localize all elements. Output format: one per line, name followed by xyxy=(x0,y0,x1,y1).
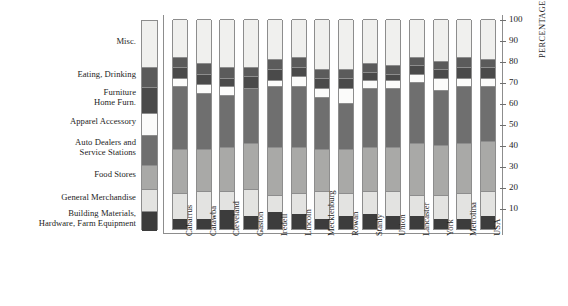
bar-segment xyxy=(481,19,495,59)
bar-segment xyxy=(410,82,424,143)
bar-segment xyxy=(481,59,495,67)
bar-union xyxy=(385,20,401,230)
bar-segment xyxy=(220,95,234,148)
bar-segment xyxy=(434,145,448,195)
bar-segment xyxy=(481,78,495,86)
plot-left-rule xyxy=(163,15,164,234)
y-axis-tick-label: 10 xyxy=(509,204,518,213)
x-axis-label-lancaster: Lancaster xyxy=(421,203,431,236)
bar-segment xyxy=(481,67,495,78)
bar-segment xyxy=(386,80,400,88)
legend-item-label-line: Home Furn. xyxy=(0,98,136,108)
bar-segment xyxy=(410,65,424,73)
legend-item-label: Auto Dealers andService Stations xyxy=(0,138,136,157)
bar-segment xyxy=(173,19,187,57)
x-axis-labels: CabarrusCatawbaClevelandGastonIredellLin… xyxy=(163,236,503,306)
bar-segment xyxy=(457,86,471,143)
bar-segment xyxy=(481,141,495,191)
y-axis-tick xyxy=(500,83,506,84)
x-axis-label-catawba: Catawba xyxy=(208,206,218,236)
bar-segment xyxy=(197,93,211,150)
bar-segment xyxy=(220,147,234,191)
bar-segment xyxy=(315,19,329,69)
bar-segment xyxy=(410,143,424,196)
bar-segment xyxy=(386,88,400,147)
bar-segment xyxy=(339,69,353,77)
bar-segment xyxy=(244,88,258,143)
bar-segment xyxy=(173,57,187,68)
y-axis-tick xyxy=(500,188,506,189)
bar-segment xyxy=(386,65,400,73)
bar-segment xyxy=(268,59,282,70)
bar-segment xyxy=(292,67,306,75)
y-axis: PERCENTAGE OF TOTAL 10203040506070809010… xyxy=(500,0,568,240)
bar-segment xyxy=(363,72,377,80)
y-axis-title: PERCENTAGE OF TOTAL xyxy=(538,0,547,58)
legend-swatch xyxy=(142,87,157,113)
bar-segment xyxy=(197,74,211,85)
bar-segment xyxy=(292,19,306,57)
bar-segment xyxy=(244,76,258,89)
legend-item-label: Building Materials,Hardware, Farm Equipm… xyxy=(0,209,136,228)
legend-item-label-line: Hardware, Farm Equipment xyxy=(0,219,136,229)
bar-segment xyxy=(173,149,187,193)
bar-iredell xyxy=(267,20,283,230)
bar-segment xyxy=(434,19,448,61)
bar-lincoln xyxy=(291,20,307,230)
bar-segment xyxy=(363,19,377,63)
bar-segment xyxy=(244,19,258,67)
y-axis-tick xyxy=(500,62,506,63)
x-axis-label-lincoln: Lincoln xyxy=(303,209,313,236)
bar-york xyxy=(433,20,449,230)
bar-segment xyxy=(363,147,377,191)
y-axis-tick-label: 30 xyxy=(509,162,518,171)
x-axis-label-stanly: Stanly xyxy=(374,214,384,236)
bar-segment xyxy=(386,19,400,65)
legend-item-label: Food Stores xyxy=(0,170,136,180)
y-axis-tick xyxy=(500,146,506,147)
bar-cabarrus xyxy=(172,20,188,230)
legend-item-label: Misc. xyxy=(0,37,136,47)
y-axis-tick xyxy=(500,167,506,168)
stacked-bar-chart: Misc.Eating, DrinkingFurnitureHome Furn.… xyxy=(0,0,568,306)
bar-segment xyxy=(410,57,424,65)
bar-segment xyxy=(434,90,448,145)
x-axis-label-york: York xyxy=(445,219,455,236)
bar-segment xyxy=(363,63,377,71)
y-axis-tick xyxy=(500,104,506,105)
legend-item-label: Apparel Accessory xyxy=(0,117,136,127)
bar-segment xyxy=(268,195,282,212)
legend-item-label-line: Food Stores xyxy=(0,170,136,180)
bar-segment xyxy=(315,97,329,150)
bar-segment xyxy=(268,19,282,59)
bar-segment xyxy=(457,67,471,78)
bar-segment xyxy=(457,19,471,57)
bar-cleveland xyxy=(219,20,235,230)
legend-item-label: FurnitureHome Furn. xyxy=(0,88,136,107)
bar-segment xyxy=(268,147,282,195)
x-axis-label-iredell: Iredell xyxy=(279,214,289,236)
legend-swatch xyxy=(142,135,157,165)
bar-segment xyxy=(481,191,495,216)
bar-rowan xyxy=(338,20,354,230)
x-axis-label-cabarrus: Cabarrus xyxy=(184,205,194,236)
legend-swatch xyxy=(142,21,157,67)
bar-segment xyxy=(268,80,282,86)
bar-segment xyxy=(197,149,211,191)
y-axis-tick xyxy=(500,41,506,42)
bar-segment xyxy=(220,78,234,86)
bar-segment xyxy=(315,88,329,96)
bar-segment xyxy=(292,86,306,147)
bar-segment xyxy=(363,191,377,214)
legend-swatch xyxy=(142,189,157,211)
x-axis-label-metrolina: Metrolina xyxy=(468,202,478,236)
legend-item-label-line: Service Stations xyxy=(0,148,136,158)
bar-segment xyxy=(220,86,234,94)
legend-label-column: Misc.Eating, DrinkingFurnitureHome Furn.… xyxy=(0,0,136,240)
bar-segment xyxy=(292,147,306,193)
y-axis-tick-label: 90 xyxy=(509,36,518,45)
bar-segment xyxy=(173,86,187,149)
x-axis-label-usa: USA xyxy=(492,219,502,236)
bar-segment xyxy=(434,78,448,91)
legend-color-key-bar xyxy=(141,20,158,230)
